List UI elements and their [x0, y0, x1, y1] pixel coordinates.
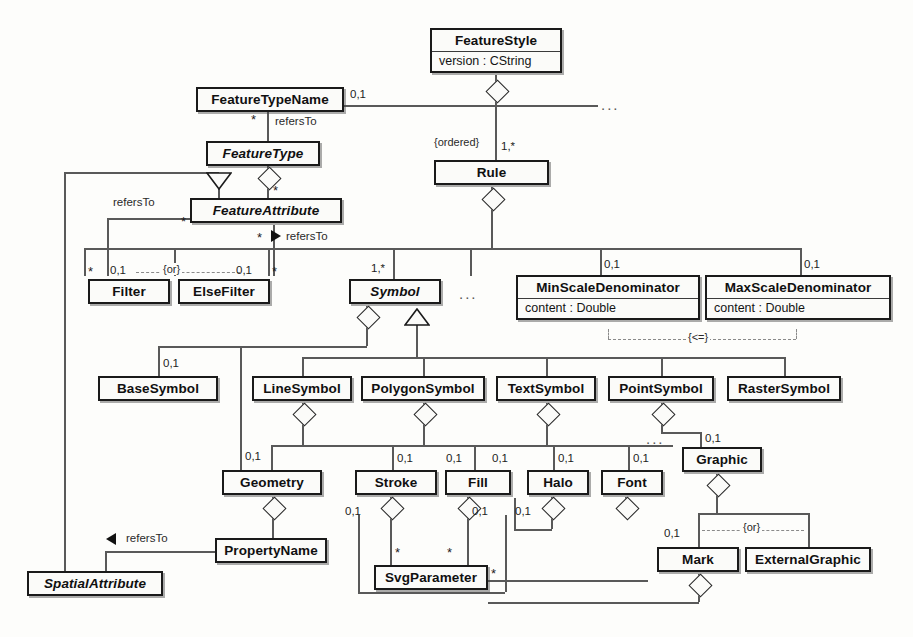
aggregation-diamond-polygonsymbol — [413, 402, 437, 426]
class-box-svgparameter[interactable]: SvgParameter — [374, 565, 488, 590]
class-box-graphic[interactable]: Graphic — [682, 447, 762, 472]
class-box-geometry[interactable]: Geometry — [222, 470, 322, 495]
multiplicity-featuretypename-style: 0,1 — [350, 88, 366, 100]
multiplicity-stroke-right: 0,1 — [446, 452, 462, 464]
class-name-rastersymbol: RasterSymbol — [729, 378, 839, 399]
class-box-rule[interactable]: Rule — [434, 160, 549, 185]
class-name-symbol: Symbol — [351, 281, 439, 302]
aggregation-diamond-linesymbol — [292, 402, 316, 426]
class-name-rule: Rule — [436, 162, 547, 183]
aggregation-diamond-textsymbol — [536, 402, 560, 426]
connector-mark-svgparameter-bus — [488, 602, 699, 604]
generalization-triangle-featureattribute — [206, 172, 232, 190]
connector-bus-filter-left — [84, 248, 86, 276]
class-box-mark[interactable]: Mark — [657, 547, 739, 572]
connector-rule-diamond-down — [491, 206, 493, 248]
class-name-halo: Halo — [529, 472, 587, 493]
multiplicity-elsefilter-star: * — [272, 264, 277, 279]
ellipsis-graphic-row: ... — [646, 430, 665, 447]
connector-featuretypename-featuretype — [267, 112, 269, 141]
connector-graphic-elbow — [661, 432, 701, 434]
multiplicity-featureattribute-star-left: * — [181, 214, 186, 229]
connector-rule-children-bus — [84, 248, 800, 250]
connector-featureattribute-left — [107, 218, 191, 220]
class-box-halo[interactable]: Halo — [527, 470, 589, 495]
class-box-textsymbol[interactable]: TextSymbol — [496, 376, 596, 401]
class-box-font[interactable]: Font — [601, 470, 663, 495]
class-name-spatialattribute: SpatialAttribute — [29, 573, 161, 594]
class-box-filter[interactable]: Filter — [88, 279, 170, 304]
class-name-stroke: Stroke — [357, 472, 435, 493]
multiplicity-rule: 1,* — [501, 140, 515, 152]
connector-geometry-long-up — [240, 346, 242, 470]
class-name-mark: Mark — [659, 549, 737, 570]
class-box-featurestyle[interactable]: FeatureStyle version : CString — [430, 28, 562, 73]
class-box-externalgraphic[interactable]: ExternalGraphic — [745, 547, 871, 572]
connector-fill-up — [474, 445, 476, 470]
class-box-spatialattribute[interactable]: SpatialAttribute — [27, 571, 163, 596]
class-name-propertyname: PropertyName — [217, 540, 325, 561]
constraint-line-or-filter — [136, 272, 240, 273]
class-box-maxscaledenominator[interactable]: MaxScaleDenominator content : Double — [705, 275, 891, 320]
connector-bus-minscale — [600, 248, 602, 275]
class-name-maxscaledenominator: MaxScaleDenominator — [707, 277, 889, 298]
multiplicity-svg-star-right: * — [447, 545, 452, 560]
multiplicity-featuretypename-star: * — [251, 112, 256, 127]
constraint-scale-le: {<=} — [686, 331, 710, 343]
class-name-svgparameter: SvgParameter — [376, 567, 486, 588]
aggregation-diamond-halo — [541, 496, 565, 520]
class-box-featuretypename[interactable]: FeatureTypeName — [196, 87, 344, 112]
multiplicity-fill-left: 0,1 — [492, 452, 508, 464]
class-name-featurestyle: FeatureStyle — [432, 30, 560, 51]
class-name-pointsymbol: PointSymbol — [610, 378, 712, 399]
connector-symbol-generalization-down — [416, 325, 418, 357]
connector-symbol-parts-bus — [271, 445, 631, 447]
connector-stroke-up — [392, 445, 394, 470]
role-label-refersto-spatialattribute: refersTo — [126, 532, 168, 544]
class-box-featuretype[interactable]: FeatureType — [206, 141, 320, 166]
class-box-basesymbol[interactable]: BaseSymbol — [98, 376, 218, 401]
uml-diagram-canvas: FeatureStyle version : CString FeatureTy… — [0, 0, 913, 637]
connector-symbol-subclass-bus — [302, 357, 784, 359]
connector-graphic-up — [700, 432, 702, 447]
class-box-stroke[interactable]: Stroke — [355, 470, 437, 495]
constraint-line-scale-le-left — [608, 329, 609, 339]
connector-generalization-left-bus — [64, 172, 219, 174]
class-box-pointsymbol[interactable]: PointSymbol — [608, 376, 714, 401]
ellipsis-top-right: ... — [601, 96, 620, 113]
class-box-minscaledenominator[interactable]: MinScaleDenominator content : Double — [516, 275, 700, 320]
aggregation-diamond-pointsymbol — [651, 402, 675, 426]
class-box-linesymbol[interactable]: LineSymbol — [252, 376, 352, 401]
class-box-rastersymbol[interactable]: RasterSymbol — [727, 376, 841, 401]
class-box-propertyname[interactable]: PropertyName — [215, 538, 327, 563]
class-attribute-featurestyle-version: version : CString — [432, 51, 560, 71]
role-label-refersto-featureattribute-left: refersTo — [113, 196, 155, 208]
connector-symbol-basesymbol-bus — [158, 346, 367, 348]
class-name-geometry: Geometry — [224, 472, 320, 493]
connector-stroke-svg-left — [358, 515, 360, 565]
class-name-minscaledenominator: MinScaleDenominator — [518, 277, 698, 298]
class-name-featuretypename: FeatureTypeName — [198, 89, 342, 110]
connector-spatialattribute-down — [105, 551, 107, 571]
aggregation-diamond-rule — [481, 187, 505, 211]
connector-bus-mid — [470, 248, 472, 276]
constraint-line-scale-le-right — [796, 329, 797, 339]
connector-halo-elbow — [514, 529, 552, 531]
connector-halo-up — [553, 445, 555, 470]
connector-geometry-up — [271, 445, 273, 470]
class-name-basesymbol: BaseSymbol — [100, 378, 216, 399]
class-box-featureattribute[interactable]: FeatureAttribute — [190, 198, 342, 223]
class-name-font: Font — [603, 472, 661, 493]
aggregation-diamond-graphic — [706, 473, 730, 497]
class-box-polygonsymbol[interactable]: PolygonSymbol — [361, 376, 485, 401]
connector-basesymbol-up — [158, 346, 160, 376]
connector-propertyname-left — [105, 551, 216, 553]
class-box-elsefilter[interactable]: ElseFilter — [178, 279, 270, 304]
class-box-fill[interactable]: Fill — [445, 470, 511, 495]
connector-linesymbol-up — [302, 357, 304, 376]
class-box-symbol[interactable]: Symbol — [349, 279, 441, 304]
aggregation-diamond-featurestyle — [485, 79, 509, 103]
connector-textsymbol-up — [546, 357, 548, 376]
multiplicity-elsefilter: 0,1 — [236, 264, 252, 276]
multiplicity-halo: 0,1 — [558, 452, 574, 464]
